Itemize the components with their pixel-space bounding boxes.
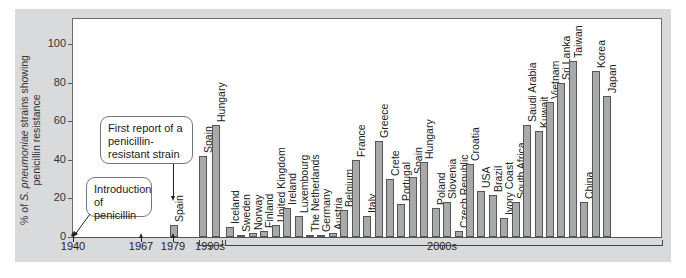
bar-2000s-norway [249, 233, 257, 237]
y-tick-label: 20 [40, 191, 66, 203]
bar-label: Slovenia [447, 159, 458, 199]
bar-2000s-poland [432, 208, 440, 237]
bar-label: Sweden [241, 194, 252, 232]
bar-label: Japan [607, 65, 618, 94]
bar-label: Greece [379, 103, 390, 137]
arrowhead-1979-icon [171, 233, 175, 238]
bar-2000s-the-netherlands [306, 235, 314, 237]
bar-2000s-sri-lanka [557, 83, 565, 237]
bar-2000s-hungary [420, 162, 428, 237]
bar-2000s-south-africa [512, 202, 520, 237]
bar-2000s-portugal [397, 204, 405, 237]
y-tick-label: 80 [40, 76, 66, 88]
bar-2000s-france [352, 160, 360, 237]
bar-1990s-hungary [212, 125, 220, 237]
bar-2000s-crete [386, 179, 394, 237]
y-tick-label: 60 [40, 114, 66, 126]
bar-2000s-croatia [466, 164, 474, 237]
bracket-2000s-tick [442, 245, 443, 249]
bar-label: Hungary [424, 119, 435, 159]
bracket-2000s [225, 240, 663, 246]
bar-label: Finland [264, 194, 275, 228]
bar-2000s-belgium [340, 210, 348, 237]
arrowhead-1967-icon [139, 233, 143, 238]
bar-2000s-sweden [237, 235, 245, 237]
bar-2000s-kuwait [535, 131, 543, 237]
bar-2000s-vietnam [546, 102, 554, 237]
y-tick-mark [68, 160, 72, 161]
bar-label: Spain [174, 196, 185, 223]
bar-2000s-finland [260, 231, 268, 237]
bar-2000s-ireland [283, 208, 291, 237]
bar-label: USA [481, 166, 492, 188]
y-tick-mark [68, 44, 72, 45]
bar-2000s-united-kingdom [272, 225, 280, 237]
bar-2000s-japan [603, 96, 611, 237]
bar-2000s-luxembourg [295, 216, 303, 237]
bar-2000s-china [580, 202, 588, 237]
bar-2000s-slovenia [443, 202, 451, 237]
callout-first-resistant-strain: First report of a penicillin-resistant s… [100, 116, 193, 164]
callout-intro-pointer-icon [72, 212, 94, 238]
y-tick-mark [68, 198, 72, 199]
bar-2000s-spain [409, 177, 417, 237]
y-tick-mark [68, 83, 72, 84]
bar-2000s-greece [375, 141, 383, 238]
arrowhead-down-icon [171, 196, 175, 201]
bracket-1990s-tick [210, 245, 211, 249]
bar-label: Croatia [470, 127, 481, 161]
bar-label: Hungary [216, 82, 227, 122]
bar-label: Saudi Arabia [527, 63, 538, 123]
bar-2000s-ivory-coast [500, 218, 508, 237]
bar-label: France [356, 124, 367, 157]
bar-label: Ireland [287, 173, 298, 205]
bar-2000s-austria [329, 233, 337, 237]
bar-2000s-czech-republic [455, 231, 463, 237]
bar-2000s-saudi-arabia [523, 125, 531, 237]
bar-label: Luxembourg [299, 154, 310, 212]
callout-first-resistant-pointer [173, 164, 174, 197]
bar-label: Taiwan [573, 26, 584, 59]
bar-2000s-brazil [489, 195, 497, 237]
y-tick-mark [68, 121, 72, 122]
bar-1990s-spain [199, 156, 207, 237]
y-axis-label-suffix: strains showing [18, 55, 30, 130]
bar-2000s-germany [317, 235, 325, 237]
bar-label: Germany [321, 189, 332, 232]
y-axis-label-line2: penicillin resistance [30, 94, 42, 185]
callout-introduction-of-penicillin: Introduction of penicillin [86, 177, 152, 217]
x-axis-line [72, 237, 662, 238]
y-tick-label: 40 [40, 153, 66, 165]
y-tick-label: 100 [40, 37, 66, 49]
bracket-1990s [199, 240, 223, 246]
y-axis-label-species: S. pneumoniae [18, 130, 30, 201]
bar-2000s-korea [592, 71, 600, 237]
bar-2000s-usa [477, 191, 485, 237]
bar-2000s-italy [363, 216, 371, 237]
y-axis-label: % of S. pneumoniae strains showing penic… [18, 55, 42, 225]
bar-2000s-taiwan [569, 61, 577, 237]
bar-2000s-iceland [226, 227, 234, 237]
y-axis-label-prefix: % of [18, 201, 30, 225]
